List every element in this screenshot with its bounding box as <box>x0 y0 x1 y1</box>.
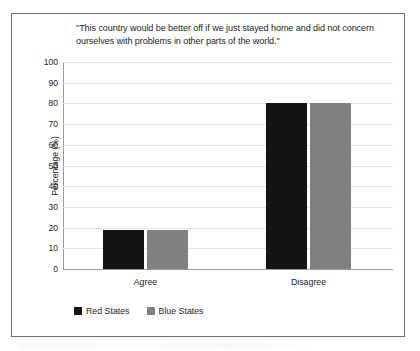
bar-disagree-red-states[interactable] <box>266 103 307 269</box>
bar-agree-blue-states[interactable] <box>147 230 188 269</box>
gridline-0 <box>63 269 393 270</box>
bar-disagree-blue-states[interactable] <box>310 103 351 269</box>
legend-label: Red States <box>86 306 130 316</box>
y-tick-label-40: 40 <box>48 181 58 191</box>
scan-artifact <box>18 342 318 349</box>
bar-group-agree: Agree <box>103 62 188 269</box>
bar-group-disagree: Disagree <box>266 62 351 269</box>
bar-agree-red-states[interactable] <box>103 230 144 269</box>
figure-frame: "This country would be better off if we … <box>11 13 405 337</box>
y-tick-label-0: 0 <box>53 264 58 274</box>
y-tick-label-90: 90 <box>48 78 58 88</box>
plot-area: Percentage (%) 1009080706050403020100 Ag… <box>63 62 393 269</box>
y-tick-label-30: 30 <box>48 202 58 212</box>
y-tick-label-10: 10 <box>48 243 58 253</box>
legend-swatch-icon <box>147 307 155 315</box>
legend-label: Blue States <box>159 306 204 316</box>
y-tick-label-20: 20 <box>48 223 58 233</box>
x-tick-label-disagree: Disagree <box>266 277 351 287</box>
y-tick-label-70: 70 <box>48 119 58 129</box>
legend-item-red-states[interactable]: Red States <box>74 306 130 316</box>
y-tick-label-60: 60 <box>48 140 58 150</box>
y-tick-label-100: 100 <box>44 57 58 67</box>
y-tick-label-80: 80 <box>48 98 58 108</box>
legend-item-blue-states[interactable]: Blue States <box>147 306 204 316</box>
chart-legend: Red StatesBlue States <box>74 306 204 316</box>
legend-swatch-icon <box>74 307 82 315</box>
x-tick-label-agree: Agree <box>103 277 188 287</box>
chart-title: "This country would be better off if we … <box>76 22 388 48</box>
y-tick-label-50: 50 <box>48 161 58 171</box>
